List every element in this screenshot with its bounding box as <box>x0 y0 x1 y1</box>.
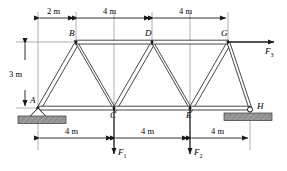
member-A-C <box>38 106 114 110</box>
member-C-E <box>114 106 190 110</box>
dimension-label-top-1: 2 m <box>47 7 60 16</box>
member-C-D <box>112 44 154 112</box>
node-label-B: B <box>69 29 75 38</box>
member-G-H <box>226 41 251 108</box>
member-B-D <box>76 40 152 44</box>
node-label-H: H <box>257 102 264 111</box>
force-label-F1: F1 <box>118 148 127 159</box>
truss-members <box>36 40 251 111</box>
member-D-G <box>152 40 228 44</box>
node-label-D: D <box>145 29 152 38</box>
node-label-A: A <box>30 96 36 105</box>
force-label-F2-sub: 2 <box>200 153 203 159</box>
node-label-C: C <box>110 111 116 120</box>
force-label-F2: F2 <box>194 148 203 159</box>
member-B-C <box>74 41 116 109</box>
force-label-F3: F3 <box>265 47 274 58</box>
dimension-label-bottom-1: 4 m <box>65 127 78 136</box>
dimension-label-top-3: 4 m <box>179 7 192 16</box>
truss-diagram-figure: 2 m 4 m 4 m 3 m 4 m 4 m 4 m A B C D E G … <box>0 0 287 171</box>
dimension-label-top-2: 4 m <box>103 7 116 16</box>
member-E-G <box>188 44 230 112</box>
dimension-label-bottom-2: 4 m <box>141 127 154 136</box>
force-label-F1-sub: 1 <box>124 153 127 159</box>
force-label-F3-sub: 3 <box>271 52 274 58</box>
truss-diagram-canvas <box>0 0 287 171</box>
node-label-E: E <box>186 111 192 120</box>
member-A-B <box>36 44 78 112</box>
member-D-E <box>150 41 192 109</box>
dimension-label-vertical: 3 m <box>9 70 22 79</box>
member-E-H <box>190 106 250 110</box>
truss-joints <box>37 41 252 110</box>
node-label-G: G <box>221 29 228 38</box>
dimension-label-bottom-3: 4 m <box>211 127 224 136</box>
